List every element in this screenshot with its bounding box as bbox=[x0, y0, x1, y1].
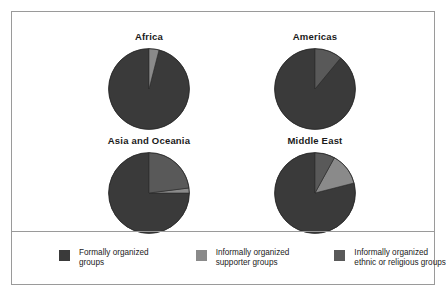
pie-title-middle-east: Middle East bbox=[240, 135, 390, 147]
legend-label-line-2: ethnic or religious groups bbox=[354, 258, 445, 269]
legend-label-line-1: Informally organized bbox=[354, 248, 445, 259]
legend-item-informally-organized-supporter-groups: Informally organized supporter groups bbox=[196, 248, 290, 269]
pie-chart-africa: Africa bbox=[74, 31, 224, 135]
pie-svg-africa bbox=[107, 47, 191, 131]
pie-chart-americas: Americas bbox=[240, 31, 390, 135]
legend-label-informally-organized-supporter-groups: Informally organized supporter groups bbox=[216, 248, 290, 269]
pie-svg-asia-and-oceania bbox=[107, 151, 191, 235]
pie-canvas-wrap-asia-and-oceania bbox=[107, 151, 191, 235]
pie-chart-asia-and-oceania: Asia and Oceania bbox=[74, 135, 224, 239]
pie-title-americas: Americas bbox=[240, 31, 390, 43]
legend-label-line-2: supporter groups bbox=[216, 258, 290, 269]
legend-label-line-2: groups bbox=[79, 258, 149, 269]
pie-canvas-wrap-middle-east bbox=[273, 151, 357, 235]
legend-item-informally-organized-ethnic-or-religious-groups: Informally organized ethnic or religious… bbox=[334, 248, 445, 269]
pie-title-africa: Africa bbox=[74, 31, 224, 43]
pie-charts-grid: Africa Americas Asia and Oceania Middle … bbox=[12, 12, 434, 231]
legend-label-formally-organized-groups: Formally organized groups bbox=[79, 248, 149, 269]
pie-canvas-wrap-africa bbox=[107, 47, 191, 131]
pie-title-asia-and-oceania: Asia and Oceania bbox=[74, 135, 224, 147]
legend-item-formally-organized-groups: Formally organized groups bbox=[59, 248, 149, 269]
legend-label-informally-organized-ethnic-or-religious-groups: Informally organized ethnic or religious… bbox=[354, 248, 445, 269]
pie-svg-americas bbox=[273, 47, 357, 131]
pie-slice bbox=[149, 153, 189, 193]
legend: Formally organized groups Informally org… bbox=[12, 232, 434, 284]
legend-swatch-informally-organized-ethnic-or-religious-groups bbox=[334, 250, 345, 261]
legend-label-line-1: Informally organized bbox=[216, 248, 290, 259]
figure-panel: Africa Americas Asia and Oceania Middle … bbox=[11, 11, 435, 285]
pie-canvas-wrap-americas bbox=[273, 47, 357, 131]
legend-label-line-1: Formally organized bbox=[79, 248, 149, 259]
pie-chart-middle-east: Middle East bbox=[240, 135, 390, 239]
pie-svg-middle-east bbox=[273, 151, 357, 235]
legend-swatch-formally-organized-groups bbox=[59, 250, 70, 261]
legend-swatch-informally-organized-supporter-groups bbox=[196, 250, 207, 261]
